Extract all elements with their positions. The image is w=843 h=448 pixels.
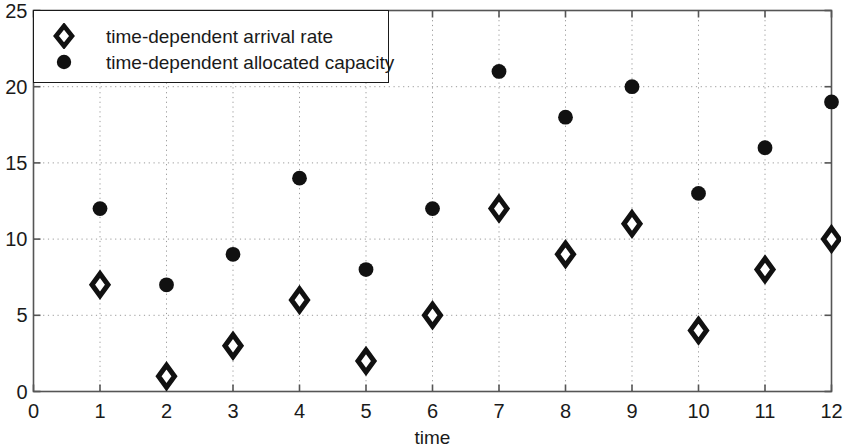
data-point-allocated-capacity (492, 64, 507, 79)
data-point-arrival-rate (425, 304, 441, 326)
data-point-allocated-capacity (558, 110, 573, 125)
x-tick-label: 4 (294, 401, 305, 421)
legend: time-dependent arrival rate time-depende… (33, 10, 389, 83)
x-axis-label: time (415, 428, 451, 447)
data-point-arrival-rate (225, 335, 241, 357)
y-tick-label: 10 (5, 229, 27, 249)
data-point-allocated-capacity (226, 247, 241, 262)
legend-label-arrival-rate: time-dependent arrival rate (106, 27, 333, 46)
series-arrival-rate-markers (92, 198, 840, 388)
data-point-arrival-rate (824, 228, 840, 250)
x-tick-label: 11 (755, 401, 776, 421)
y-tick-label: 5 (16, 305, 27, 325)
data-point-arrival-rate (691, 320, 707, 342)
legend-item-arrival-rate: time-dependent arrival rate (44, 23, 333, 49)
data-point-arrival-rate (624, 213, 640, 235)
legend-label-allocated-capacity: time-dependent allocated capacity (106, 53, 394, 72)
data-point-arrival-rate (292, 289, 308, 311)
x-tick-label: 10 (687, 401, 709, 421)
data-point-allocated-capacity (824, 95, 839, 110)
data-point-arrival-rate (491, 198, 507, 220)
data-point-allocated-capacity (425, 201, 440, 216)
y-tick-label: 20 (5, 77, 27, 97)
data-point-allocated-capacity (359, 262, 374, 277)
data-point-allocated-capacity (691, 186, 706, 201)
data-point-allocated-capacity (292, 171, 307, 186)
x-tick-label: 12 (820, 401, 842, 421)
data-point-allocated-capacity (159, 277, 174, 292)
circle-filled-icon (44, 49, 84, 75)
diamond-open-icon (44, 23, 84, 49)
x-tick-label: 3 (227, 401, 238, 421)
y-tick-label: 25 (5, 1, 27, 21)
data-point-allocated-capacity (93, 201, 108, 216)
x-tick-label: 8 (560, 401, 571, 421)
data-point-allocated-capacity (758, 140, 773, 155)
x-tick-label: 9 (626, 401, 637, 421)
x-tick-label: 7 (493, 401, 504, 421)
x-tick-label: 5 (360, 401, 371, 421)
data-point-arrival-rate (358, 350, 374, 372)
series-allocated-capacity-markers (93, 64, 839, 292)
x-tick-label: 2 (161, 401, 172, 421)
x-tick-label: 0 (28, 401, 39, 421)
data-point-arrival-rate (92, 274, 108, 296)
data-point-arrival-rate (558, 243, 574, 265)
x-tick-label: 6 (427, 401, 438, 421)
data-point-allocated-capacity (625, 79, 640, 94)
data-point-arrival-rate (757, 259, 773, 281)
y-tick-label: 15 (5, 153, 27, 173)
data-point-arrival-rate (159, 365, 175, 387)
x-tick-label: 1 (94, 401, 105, 421)
y-tick-label: 0 (16, 382, 27, 402)
legend-item-allocated-capacity: time-dependent allocated capacity (44, 49, 394, 75)
